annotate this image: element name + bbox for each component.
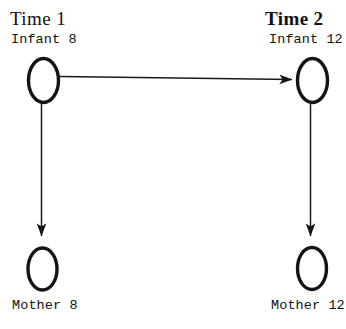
time1-title: Time 1 <box>10 9 66 28</box>
edge-infant8-to-infant12 <box>60 77 292 80</box>
node-mother12 <box>298 248 327 290</box>
diagram-canvas <box>0 0 346 329</box>
node-label-mother8: Mother 8 <box>12 299 78 313</box>
node-infant12 <box>298 59 328 103</box>
node-label-mother12: Mother 12 <box>271 299 345 313</box>
node-label-infant12: Infant 12 <box>269 33 343 47</box>
node-mother8 <box>28 248 57 290</box>
node-infant8 <box>29 59 59 103</box>
node-label-infant8: Infant 8 <box>11 33 77 47</box>
time2-title: Time 2 <box>265 9 324 28</box>
path-diagram: Time 1 Infant 8 Time 2 Infant 12 Mother … <box>0 0 346 329</box>
